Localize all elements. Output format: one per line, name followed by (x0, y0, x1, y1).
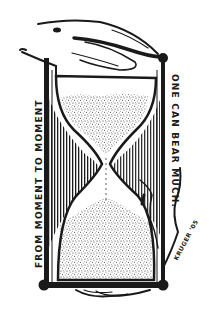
right-caption: ONE CAN BEAR MUCH. (170, 74, 180, 208)
hand-top (20, 20, 160, 78)
knob-bottom-right (158, 280, 169, 291)
bottom-bar (43, 282, 165, 288)
illustration: FROM MOMENT TO MOMENT ONE CAN BEAR MUCH.… (0, 0, 215, 309)
knob-bottom-left (39, 280, 50, 291)
left-post (44, 58, 49, 286)
right-post (161, 58, 165, 286)
left-caption: FROM MOMENT TO MOMENT (34, 99, 44, 268)
hourglass-drawing (0, 0, 215, 309)
hand-bottom (76, 290, 150, 296)
